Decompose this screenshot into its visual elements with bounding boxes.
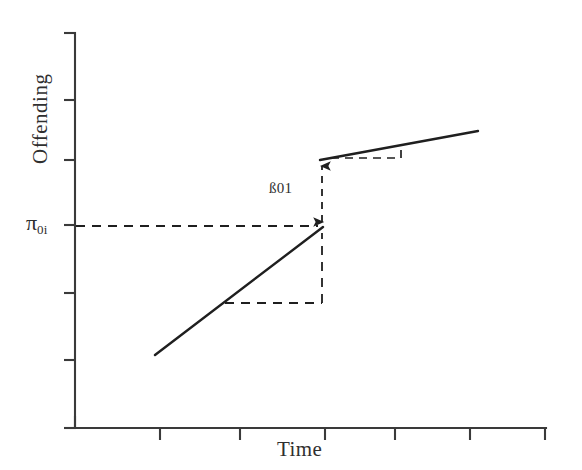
pi-symbol: π bbox=[26, 210, 37, 235]
axis-spines bbox=[75, 33, 546, 428]
post-intervention-trajectory bbox=[320, 131, 478, 160]
pre-intervention-trajectory bbox=[155, 227, 323, 355]
chart-canvas bbox=[0, 0, 582, 470]
x-axis-label: Time bbox=[277, 437, 322, 462]
lower-slope-triangle bbox=[225, 233, 322, 303]
beta-01-annotation-label: ß01 bbox=[269, 180, 292, 197]
y-axis-label: Offending bbox=[28, 24, 53, 164]
offending-over-time-figure: Offending Time π0i ß01 bbox=[0, 0, 582, 470]
pi-subscript: 0i bbox=[37, 222, 48, 237]
pi-0i-axis-value-label: π0i bbox=[26, 210, 48, 238]
